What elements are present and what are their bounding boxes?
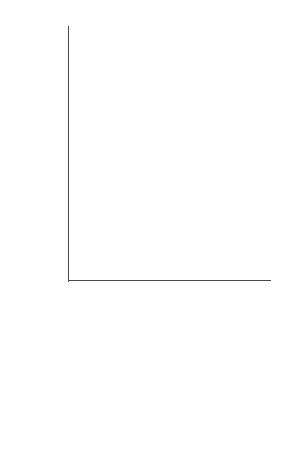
plot-area <box>68 28 270 280</box>
x-axis-line <box>68 280 271 281</box>
npp-bar-chart <box>0 0 305 460</box>
